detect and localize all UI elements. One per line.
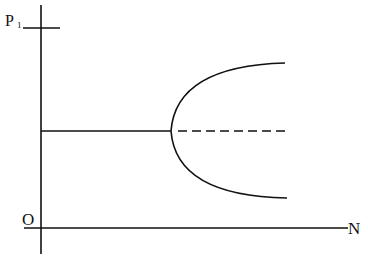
y-axis-label-subscript: 1: [17, 20, 22, 30]
y-axis-label: P: [5, 12, 14, 29]
x-axis-label: N: [348, 219, 360, 238]
bifurcation-diagram: P 1 O N: [0, 0, 368, 261]
origin-label: O: [22, 210, 34, 229]
